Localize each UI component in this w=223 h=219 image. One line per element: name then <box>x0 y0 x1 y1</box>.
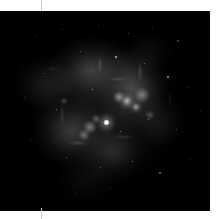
background-star <box>42 181 43 182</box>
background-star <box>110 187 111 188</box>
background-star <box>159 172 161 174</box>
background-star <box>188 87 189 88</box>
background-star <box>120 131 121 132</box>
background-star <box>18 59 19 60</box>
vignette-overlay <box>0 11 210 211</box>
background-star <box>76 193 77 194</box>
astronomical-image-panel[interactable] <box>0 11 210 211</box>
background-star <box>196 55 197 56</box>
vertical-guide-line-top <box>41 0 42 11</box>
background-star <box>24 97 25 98</box>
background-star <box>56 109 57 110</box>
page-root <box>0 0 223 219</box>
background-star <box>200 111 201 112</box>
nebula-bright-knot-layer <box>0 11 210 211</box>
background-star <box>98 25 99 26</box>
primary-star <box>103 119 110 126</box>
background-star <box>144 63 145 64</box>
background-star <box>66 157 67 158</box>
background-star <box>80 51 81 52</box>
background-star <box>14 167 15 168</box>
star-field-layer <box>0 11 210 211</box>
vertical-guide-line-bottom <box>41 208 42 219</box>
background-star <box>182 203 183 204</box>
background-star <box>44 73 45 74</box>
background-star <box>100 167 101 168</box>
background-star <box>176 129 177 130</box>
nebula-diffuse-glow-layer <box>0 11 210 211</box>
background-star <box>177 40 179 42</box>
background-star <box>190 159 191 160</box>
background-star <box>128 33 129 34</box>
background-star <box>35 36 36 37</box>
background-star <box>132 161 133 162</box>
background-star <box>148 119 149 120</box>
background-star <box>152 27 153 28</box>
background-star <box>167 76 169 78</box>
background-star <box>92 89 93 90</box>
background-star <box>146 199 147 200</box>
background-star <box>204 181 205 182</box>
background-star <box>115 56 117 58</box>
background-star <box>30 139 31 140</box>
nebula-filament-layer <box>0 11 210 211</box>
background-star <box>62 29 63 30</box>
